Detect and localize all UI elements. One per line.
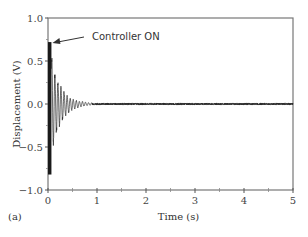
annotation-arrow bbox=[57, 37, 84, 42]
panel-label: (a) bbox=[8, 211, 22, 222]
displacement-chart: 1.00.50.0−0.5−1.0 012345 Controller ON D… bbox=[0, 0, 308, 237]
controller-on-annotation: Controller ON bbox=[52, 31, 159, 44]
annotation-text: Controller ON bbox=[92, 31, 160, 42]
arrowhead-icon bbox=[52, 38, 60, 44]
y-tick-label: 1.0 bbox=[27, 13, 43, 24]
x-tick-label: 3 bbox=[192, 195, 198, 206]
y-tick-label: 0.5 bbox=[27, 56, 43, 67]
y-tick-label: −0.5 bbox=[19, 142, 43, 153]
x-tick-label: 0 bbox=[45, 195, 51, 206]
x-axis-ticks: 012345 bbox=[45, 188, 296, 206]
y-axis-label: Displacement (V) bbox=[11, 60, 22, 148]
y-axis-ticks: 1.00.50.0−0.5−1.0 bbox=[19, 13, 48, 196]
x-tick-label: 4 bbox=[241, 195, 247, 206]
x-axis-label: Time (s) bbox=[158, 211, 199, 222]
x-tick-label: 5 bbox=[290, 195, 296, 206]
displacement-signal bbox=[48, 42, 293, 174]
x-tick-label: 2 bbox=[143, 195, 149, 206]
x-tick-label: 1 bbox=[94, 195, 100, 206]
y-tick-label: −1.0 bbox=[19, 185, 43, 196]
y-tick-label: 0.0 bbox=[27, 99, 43, 110]
